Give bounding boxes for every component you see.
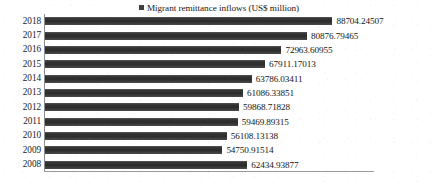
bar-value-label: 63786.03411 bbox=[256, 74, 303, 84]
bar-row: 201056108.13138 bbox=[0, 129, 438, 143]
category-label: 2018 bbox=[0, 16, 41, 27]
bar[interactable] bbox=[45, 132, 227, 140]
bar-row: 201672963.60955 bbox=[0, 43, 438, 57]
bar[interactable] bbox=[45, 75, 252, 83]
bar-container: 88704.24507 bbox=[45, 14, 384, 28]
bar[interactable] bbox=[45, 17, 332, 25]
bar[interactable] bbox=[45, 161, 247, 169]
bar-row: 200862434.93877 bbox=[0, 157, 438, 171]
category-label: 2015 bbox=[0, 59, 41, 70]
bar-value-label: 59868.71828 bbox=[243, 102, 290, 112]
bar-row: 201780876.79465 bbox=[0, 28, 438, 42]
bar-container: 54750.91514 bbox=[45, 143, 274, 157]
bar-row: 201259868.71828 bbox=[0, 100, 438, 114]
bar-row: 201361086.33851 bbox=[0, 86, 438, 100]
category-label: 2011 bbox=[0, 116, 41, 127]
category-label: 2017 bbox=[0, 30, 41, 41]
bar-chart: Migrant remittance inflows (US$ million)… bbox=[0, 0, 438, 184]
bar-container: 80876.79465 bbox=[45, 28, 358, 42]
bar-container: 67911.17013 bbox=[45, 57, 316, 71]
bar-row: 201463786.03411 bbox=[0, 71, 438, 85]
bar-container: 63786.03411 bbox=[45, 71, 302, 85]
bar-row: 200954750.91514 bbox=[0, 143, 438, 157]
legend-label: Migrant remittance inflows (US$ million) bbox=[147, 3, 299, 13]
category-label: 2010 bbox=[0, 130, 41, 141]
bar[interactable] bbox=[45, 46, 281, 54]
bar[interactable] bbox=[45, 60, 265, 68]
category-label: 2009 bbox=[0, 145, 41, 156]
bar-container: 62434.93877 bbox=[45, 157, 298, 171]
bar-container: 56108.13138 bbox=[45, 129, 278, 143]
bar[interactable] bbox=[45, 146, 222, 154]
bar[interactable] bbox=[45, 89, 243, 97]
bar-row: 201159469.89315 bbox=[0, 114, 438, 128]
bar-value-label: 80876.79465 bbox=[311, 31, 358, 41]
bar-container: 72963.60955 bbox=[45, 43, 333, 57]
bar-value-label: 62434.93877 bbox=[251, 160, 298, 170]
category-label: 2014 bbox=[0, 73, 41, 84]
bar-value-label: 88704.24507 bbox=[336, 16, 383, 26]
bar-value-label: 56108.13138 bbox=[231, 131, 278, 141]
bar-value-label: 72963.60955 bbox=[285, 45, 332, 55]
bar-value-label: 54750.91514 bbox=[226, 145, 273, 155]
legend-entry: Migrant remittance inflows (US$ million) bbox=[139, 3, 299, 13]
bar[interactable] bbox=[45, 103, 239, 111]
plot-area: 201888704.24507201780876.79465201672963.… bbox=[0, 14, 438, 177]
category-label: 2016 bbox=[0, 44, 41, 55]
legend-color-swatch-icon bbox=[139, 5, 144, 10]
category-label: 2013 bbox=[0, 87, 41, 98]
bar-row: 201888704.24507 bbox=[0, 14, 438, 28]
bar-row: 201567911.17013 bbox=[0, 57, 438, 71]
category-label: 2012 bbox=[0, 102, 41, 113]
bar-container: 59868.71828 bbox=[45, 100, 290, 114]
bar[interactable] bbox=[45, 118, 238, 126]
bar-rows: 201888704.24507201780876.79465201672963.… bbox=[0, 14, 438, 172]
bar-container: 61086.33851 bbox=[45, 86, 294, 100]
bar-value-label: 59469.89315 bbox=[242, 117, 289, 127]
chart-legend: Migrant remittance inflows (US$ million) bbox=[0, 1, 438, 14]
bar[interactable] bbox=[45, 32, 307, 40]
bar-container: 59469.89315 bbox=[45, 114, 289, 128]
bar-value-label: 67911.17013 bbox=[269, 59, 316, 69]
bar-value-label: 61086.33851 bbox=[247, 88, 294, 98]
category-label: 2008 bbox=[0, 159, 41, 170]
